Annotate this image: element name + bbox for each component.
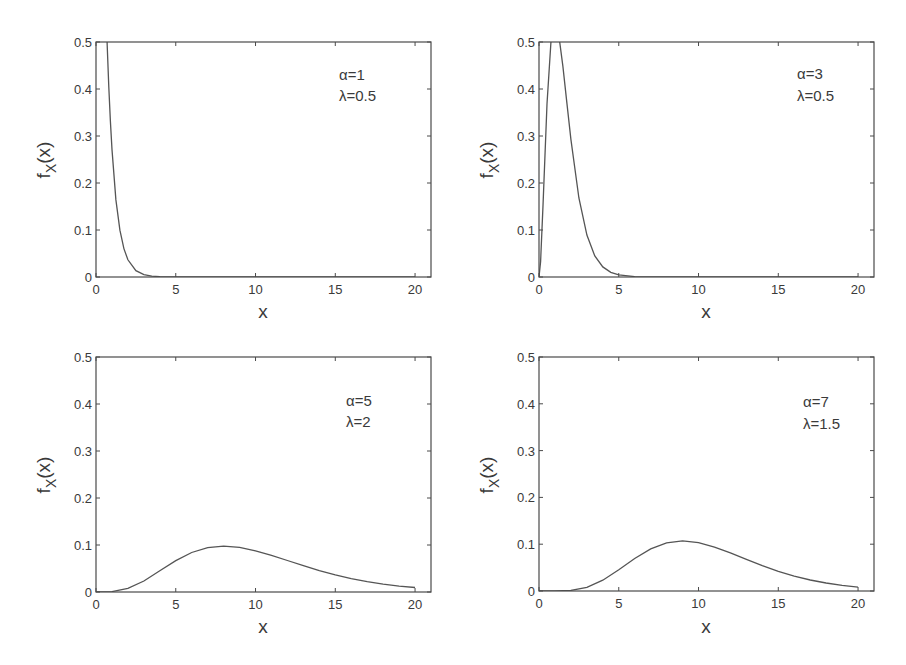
x-tick-label: 20 [408,282,422,297]
axes-frame [96,42,431,277]
x-tick-label: 15 [771,596,785,611]
y-axis-label: fX(x) [476,142,502,179]
x-tick-label: 5 [615,282,622,297]
x-tick-label: 15 [328,282,342,297]
y-tick-label: 0.5 [74,350,92,365]
y-axis-label: fX(x) [476,457,502,494]
y-tick-label: 0.1 [74,538,92,553]
x-tick-label: 10 [691,596,705,611]
x-tick-label: 20 [408,597,422,612]
x-tick-label: 20 [851,282,865,297]
x-axis-label: x [701,616,711,637]
y-tick-label: 0.5 [517,35,535,50]
annotation-lambda: λ=1.5 [803,415,840,432]
x-tick-label: 5 [615,596,622,611]
y-tick-label: 0.2 [517,490,535,505]
svg-text:fX(x): fX(x) [476,457,502,494]
figure-grid: α=1 λ=0.5 x fX(x) 0510152000.10.20.30.40… [0,0,906,665]
y-tick-label: 0.3 [517,129,535,144]
x-tick-label: 10 [248,597,262,612]
axes-frame [96,357,431,592]
svg-text:fX(x): fX(x) [33,142,59,179]
annotation-lambda: λ=0.5 [797,87,834,104]
pdf-curve [96,546,415,592]
y-tick-label: 0.2 [517,176,535,191]
y-tick-label: 0 [528,584,535,599]
annotation-alpha: α=5 [346,392,372,409]
y-tick-label: 0.4 [517,397,535,412]
x-tick-label: 5 [172,597,179,612]
y-tick-label: 0.1 [517,223,535,238]
y-tick-label: 0 [528,270,535,285]
annotation-alpha: α=1 [339,66,365,83]
subplot-bottom-left: α=5 λ=2 x fX(x) 0510152000.10.20.30.40.5 [33,350,431,637]
pdf-curve [539,23,858,277]
x-tick-label: 20 [851,596,865,611]
y-tick-label: 0.2 [74,491,92,506]
x-tick-label: 0 [92,282,99,297]
y-tick-label: 0 [85,270,92,285]
y-tick-label: 0.1 [517,537,535,552]
y-axis-label: fX(x) [33,457,59,494]
x-tick-label: 5 [172,282,179,297]
x-tick-label: 10 [691,282,705,297]
svg-text:fX(x): fX(x) [476,142,502,179]
y-tick-label: 0.5 [517,350,535,365]
annotation-lambda: λ=2 [346,413,371,430]
svg-text:fX(x): fX(x) [33,457,59,494]
y-tick-label: 0.4 [517,82,535,97]
pdf-curve [539,541,858,591]
y-tick-label: 0.4 [74,82,92,97]
subplot-top-left: α=1 λ=0.5 x fX(x) 0510152000.10.20.30.40… [33,0,431,322]
x-tick-label: 10 [248,282,262,297]
x-tick-label: 15 [771,282,785,297]
annotation-alpha: α=3 [797,65,823,82]
x-tick-label: 15 [328,597,342,612]
y-tick-label: 0 [85,585,92,600]
subplot-bottom-right: α=7 λ=1.5 x fX(x) 0510152000.10.20.30.40… [476,350,874,637]
x-axis-label: x [258,616,268,637]
y-axis-label: fX(x) [33,142,59,179]
x-tick-label: 0 [92,597,99,612]
x-tick-label: 0 [535,596,542,611]
y-tick-label: 0.3 [74,444,92,459]
y-tick-label: 0.2 [74,176,92,191]
subplot-top-right: α=3 λ=0.5 x fX(x) 0510152000.10.20.30.40… [476,23,874,322]
y-tick-label: 0.3 [517,444,535,459]
x-axis-label: x [258,301,268,322]
y-tick-label: 0.3 [74,129,92,144]
annotation-alpha: α=7 [803,393,829,410]
x-tick-label: 0 [535,282,542,297]
annotation-lambda: λ=0.5 [339,87,376,104]
x-axis-label: x [701,301,711,322]
y-tick-label: 0.4 [74,397,92,412]
y-tick-label: 0.5 [74,35,92,50]
y-tick-label: 0.1 [74,223,92,238]
